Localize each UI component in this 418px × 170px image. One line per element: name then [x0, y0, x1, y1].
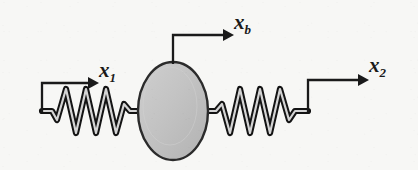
mass-body [138, 62, 208, 160]
displacement-arrow-xb [173, 29, 234, 64]
label-xb-base: x [234, 10, 245, 34]
spring-mass-figure: x1 xb x2 [0, 0, 418, 170]
label-x1-base: x [99, 58, 110, 82]
displacement-arrow-x2 [308, 74, 369, 112]
label-x1: x1 [99, 60, 116, 81]
left-spring [42, 89, 140, 133]
right-spring [206, 89, 308, 133]
label-xb: xb [234, 12, 251, 33]
arrow-x1-head [88, 77, 99, 89]
mass-ellipse [138, 62, 208, 160]
arrow-xb-stem [173, 35, 225, 64]
figure-canvas [0, 0, 418, 170]
right-spring-outline [206, 89, 308, 133]
arrow-x2-stem [308, 80, 360, 112]
label-x2-base: x [369, 53, 380, 77]
label-x2-subscript: 2 [380, 65, 387, 80]
arrow-xb-head [223, 29, 234, 41]
arrow-x2-head [358, 74, 369, 86]
label-x1-subscript: 1 [110, 70, 117, 85]
label-x2: x2 [369, 55, 386, 76]
label-xb-subscript: b [245, 22, 252, 37]
